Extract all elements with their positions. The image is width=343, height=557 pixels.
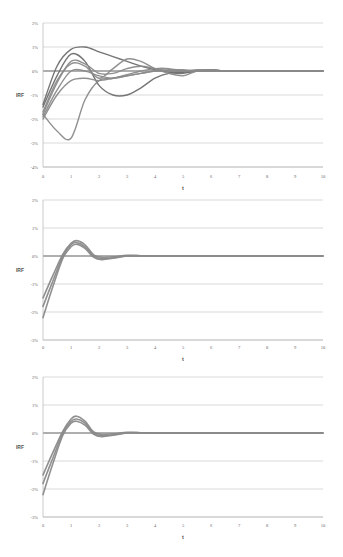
x-tick-label: 2 xyxy=(98,523,100,528)
irf-chart-top: 2%1%0%-1%-2%-3%-4%012345678910tIRF xyxy=(16,21,326,191)
irf-series-line xyxy=(43,421,323,495)
y-tick-label: 1% xyxy=(32,45,38,50)
y-tick-label: 0% xyxy=(32,254,38,259)
y-tick-label: -2% xyxy=(31,487,39,492)
irf-series-line xyxy=(43,242,323,306)
y-tick-label: 1% xyxy=(32,403,38,408)
x-tick-label: 6 xyxy=(210,345,213,350)
x-tick-label: 1 xyxy=(70,523,72,528)
y-tick-label: -3% xyxy=(31,141,39,146)
x-tick-label: 5 xyxy=(182,174,185,179)
x-tick-label: 1 xyxy=(70,345,72,350)
x-tick-label: 7 xyxy=(238,345,241,350)
y-axis-title: IRF xyxy=(16,92,24,98)
x-tick-label: 7 xyxy=(238,174,241,179)
irf-chart-bottom: 2%1%0%-1%-2%-3%012345678910tIRF xyxy=(16,375,326,540)
x-tick-label: 8 xyxy=(266,523,269,528)
x-tick-label: 6 xyxy=(210,523,213,528)
x-tick-label: 10 xyxy=(321,345,326,350)
irf-chart-middle: 2%1%0%-1%-2%-3%012345678910tIRF xyxy=(16,198,326,362)
x-tick-label: 7 xyxy=(238,523,241,528)
x-tick-label: 4 xyxy=(154,174,157,179)
x-tick-label: 8 xyxy=(266,345,269,350)
x-tick-label: 6 xyxy=(210,174,213,179)
x-axis-title: t xyxy=(182,185,184,191)
x-tick-label: 4 xyxy=(154,345,157,350)
y-tick-label: 0% xyxy=(32,431,38,436)
x-tick-label: 0 xyxy=(42,523,45,528)
y-tick-label: 2% xyxy=(32,198,38,203)
irf-series-line xyxy=(43,60,323,114)
y-axis-title: IRF xyxy=(16,267,24,273)
irf-series-line xyxy=(43,68,323,140)
x-tick-label: 9 xyxy=(294,174,297,179)
irf-series-line xyxy=(43,59,323,112)
x-tick-label: 10 xyxy=(321,523,326,528)
x-tick-label: 9 xyxy=(294,523,297,528)
x-tick-label: 0 xyxy=(42,345,45,350)
irf-series-line xyxy=(43,244,323,317)
x-tick-label: 9 xyxy=(294,345,297,350)
x-tick-label: 1 xyxy=(70,174,72,179)
x-tick-label: 8 xyxy=(266,174,269,179)
x-tick-label: 3 xyxy=(126,523,129,528)
x-tick-label: 3 xyxy=(126,345,129,350)
x-tick-label: 4 xyxy=(154,523,157,528)
x-tick-label: 0 xyxy=(42,174,45,179)
x-tick-label: 2 xyxy=(98,174,100,179)
y-tick-label: -2% xyxy=(31,310,39,315)
y-tick-label: -3% xyxy=(31,515,39,520)
x-axis-title: t xyxy=(182,534,184,540)
y-tick-label: -3% xyxy=(31,338,39,343)
y-tick-label: -1% xyxy=(31,459,39,464)
y-tick-label: 1% xyxy=(32,226,38,231)
y-tick-label: -1% xyxy=(31,93,39,98)
x-axis-title: t xyxy=(182,356,184,362)
irf-series-line xyxy=(43,419,323,484)
y-tick-label: -4% xyxy=(31,165,39,170)
y-tick-label: 2% xyxy=(32,21,38,26)
x-tick-label: 3 xyxy=(126,174,129,179)
y-tick-label: 0% xyxy=(32,69,38,74)
y-tick-label: 2% xyxy=(32,375,38,380)
irf-figure: 2%1%0%-1%-2%-3%-4%012345678910tIRF 2%1%0… xyxy=(0,0,343,557)
y-axis-title: IRF xyxy=(16,444,24,450)
x-tick-label: 5 xyxy=(182,345,185,350)
y-tick-label: -2% xyxy=(31,117,39,122)
x-tick-label: 5 xyxy=(182,523,185,528)
y-tick-label: -1% xyxy=(31,282,39,287)
x-tick-label: 10 xyxy=(321,174,326,179)
x-tick-label: 2 xyxy=(98,345,100,350)
